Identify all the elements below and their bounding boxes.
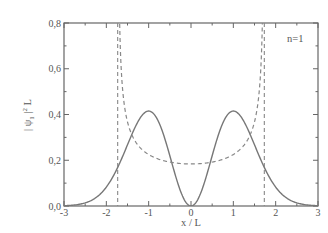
quantum-density-curve: [64, 111, 318, 206]
plot-frame: [64, 23, 318, 206]
y-tick-label: 0,6: [49, 63, 62, 74]
y-axis-label-end: L: [22, 99, 33, 108]
y-tick-label: 0,2: [49, 155, 62, 166]
classical-density-curve: [118, 12, 264, 164]
data-series: [64, 12, 318, 206]
y-axis-label: | ψ1 |2 L: [21, 99, 36, 131]
x-tick-label: -3: [60, 207, 68, 218]
x-tick-label: -1: [144, 207, 152, 218]
axis-ticks: [64, 23, 318, 206]
y-tick-label: 0,0: [49, 201, 62, 212]
x-tick-label: 2: [273, 207, 278, 218]
y-tick-label: 0,4: [49, 109, 62, 120]
axis-tick-labels: -3-2-101230,00,20,40,60,8: [49, 18, 321, 219]
y-tick-label: 0,8: [49, 18, 62, 29]
y-axis-label-main: | ψ: [22, 119, 33, 131]
chart: -3-2-101230,00,20,40,60,8 x / L | ψ1 |2 …: [0, 0, 328, 233]
x-tick-label: 1: [231, 207, 236, 218]
n-annotation: n=1: [287, 33, 303, 44]
x-axis-label: x / L: [181, 217, 201, 228]
svg-text:| ψ1 |2 L: | ψ1 |2 L: [21, 99, 36, 131]
x-tick-label: -2: [102, 207, 110, 218]
plot-border: [64, 23, 318, 206]
x-tick-label: 3: [316, 207, 321, 218]
